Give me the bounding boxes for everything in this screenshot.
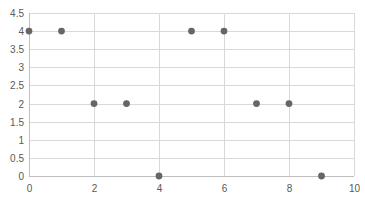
y-tick-label: 1 (18, 135, 24, 146)
y-tick-label: 2 (18, 99, 24, 110)
data-point (318, 173, 325, 180)
x-tick-label: 0 (27, 183, 33, 194)
axes (29, 13, 354, 177)
x-tick-label: 10 (349, 183, 361, 194)
data-point (123, 100, 130, 107)
y-tick-label: 1.5 (10, 117, 24, 128)
data-point (188, 28, 195, 35)
scatter-chart: 00.511.522.533.544.5 0246810 (0, 0, 365, 200)
y-tick-label: 0.5 (10, 153, 24, 164)
data-point (221, 28, 228, 35)
y-tick-label: 2.5 (10, 80, 24, 91)
x-tick-label: 6 (222, 183, 228, 194)
data-points (26, 28, 325, 180)
data-point (156, 173, 163, 180)
y-tick-label: 4.5 (10, 8, 24, 19)
data-point (286, 100, 293, 107)
y-tick-label: 3.5 (10, 44, 24, 55)
x-axis-tick-labels: 0246810 (27, 183, 361, 194)
x-tick-label: 2 (92, 183, 98, 194)
y-tick-label: 3 (18, 62, 24, 73)
data-point (58, 28, 65, 35)
data-point (26, 28, 33, 35)
data-point (253, 100, 260, 107)
data-point (91, 100, 98, 107)
gridlines (29, 13, 355, 176)
y-tick-label: 4 (18, 26, 24, 37)
x-tick-label: 4 (157, 183, 163, 194)
y-tick-label: 0 (18, 171, 24, 182)
y-axis-tick-labels: 00.511.522.533.544.5 (10, 8, 24, 182)
x-tick-label: 8 (287, 183, 293, 194)
